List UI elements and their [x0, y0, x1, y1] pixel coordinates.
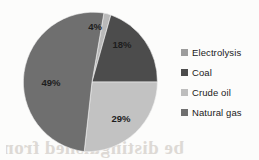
pie-chart: 4% 18% 29% 49%: [18, 8, 168, 156]
legend-label-electrolysis: Electrolysis: [192, 47, 241, 58]
legend-swatch-natural-gas: [181, 109, 188, 116]
legend-swatch-crude-oil: [181, 89, 188, 96]
pie-chart-svg: 4% 18% 29% 49%: [18, 8, 168, 156]
pie-label-electrolysis: 4%: [88, 21, 102, 32]
legend-label-coal: Coal: [192, 67, 212, 78]
legend-item-natural-gas[interactable]: Natural gas: [181, 103, 257, 122]
legend-swatch-electrolysis: [181, 49, 188, 56]
pie-label-coal: 18%: [112, 39, 132, 50]
legend-item-crude-oil[interactable]: Crude oil: [181, 83, 257, 102]
legend: Electrolysis Coal Crude oil Natural gas: [181, 43, 257, 123]
chart-page: be distinguished from 4% 18% 29% 49% Ele…: [0, 0, 259, 160]
legend-label-crude-oil: Crude oil: [192, 87, 231, 98]
pie-label-natural-gas: 49%: [41, 77, 61, 88]
legend-label-natural-gas: Natural gas: [192, 107, 242, 118]
legend-item-coal[interactable]: Coal: [181, 63, 257, 82]
legend-swatch-coal: [181, 69, 188, 76]
legend-item-electrolysis[interactable]: Electrolysis: [181, 43, 257, 62]
pie-label-crude-oil: 29%: [111, 113, 131, 124]
